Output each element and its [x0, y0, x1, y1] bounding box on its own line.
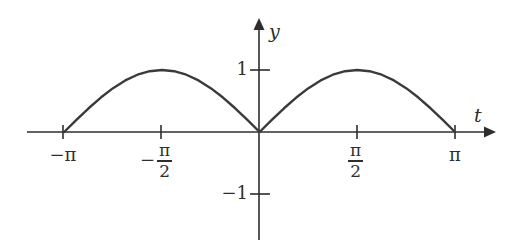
x-axis-label: t — [474, 106, 482, 125]
y-tick-label-minus-1: −1 — [218, 184, 248, 202]
plot-canvas — [0, 0, 509, 242]
fraction-stack: π 2 — [157, 142, 172, 180]
fraction-numerator: π — [348, 142, 363, 160]
x-tick-label-pi-over-2: π 2 — [348, 142, 363, 180]
x-tick-label-neg-pi-over-2: − π 2 — [140, 142, 172, 180]
x-tick-label-neg-pi: −π — [45, 146, 81, 164]
plot-figure: y t 1 −1 −π − π 2 π 2 π — [0, 0, 509, 242]
fraction-numerator: π — [157, 142, 172, 160]
y-axis-arrowhead — [254, 18, 265, 30]
fraction-denominator: 2 — [157, 162, 172, 180]
x-tick-label-pi: π — [443, 146, 467, 164]
fraction-stack: π 2 — [348, 142, 363, 180]
x-axis-arrowhead — [484, 127, 496, 138]
y-axis-label: y — [269, 22, 280, 41]
fraction-denominator: 2 — [348, 162, 363, 180]
fraction-sign: − — [140, 151, 155, 171]
y-tick-label-1: 1 — [230, 60, 248, 78]
